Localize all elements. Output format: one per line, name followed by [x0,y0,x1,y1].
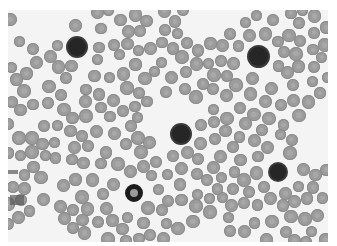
red-blood-cell [252,151,263,162]
red-blood-cell [140,15,153,28]
red-blood-cell [278,119,289,130]
debris [8,170,18,174]
red-blood-cell [293,181,305,193]
red-blood-cell [240,17,251,28]
red-blood-cell [201,174,213,186]
red-blood-cell [308,27,320,39]
red-blood-cell [17,84,31,98]
red-blood-cell [76,130,88,142]
red-blood-cell [52,120,64,132]
red-blood-cell [311,209,324,222]
red-blood-cell [156,37,168,49]
red-blood-cell [8,147,14,159]
red-blood-cell [223,212,234,223]
red-blood-cell [114,14,127,27]
red-blood-cell [64,125,76,137]
red-blood-cell [216,39,229,52]
red-blood-cell [42,97,54,109]
red-blood-cell [224,28,236,40]
red-blood-cell [93,42,104,53]
red-blood-cell [203,205,217,219]
red-blood-cell [52,40,64,52]
red-blood-cell [179,83,191,95]
red-blood-cell [194,137,207,150]
red-blood-cell [220,89,233,102]
red-blood-cell [52,60,66,74]
red-blood-cell [252,199,263,210]
red-blood-cell [243,29,256,42]
red-blood-cell [117,67,131,81]
red-blood-cell [25,131,39,145]
red-blood-cell [256,124,268,136]
red-blood-cell [60,72,72,84]
red-blood-cell [14,104,27,117]
red-blood-cell [95,158,106,169]
red-blood-cell [224,225,236,237]
red-blood-cell [307,76,318,87]
red-blood-cell [14,36,25,47]
red-blood-cell [249,217,260,228]
red-blood-cell [289,47,303,61]
red-blood-cell [259,95,272,108]
red-blood-cell [260,233,273,242]
red-blood-cell [132,112,143,123]
red-blood-cell [219,125,231,137]
red-blood-cell [320,164,328,176]
red-blood-cell [267,14,279,26]
red-blood-cell [137,217,150,230]
red-blood-cell [95,23,107,35]
red-blood-cell [208,104,219,115]
red-blood-cell [319,233,328,242]
red-blood-cell [104,111,116,123]
red-blood-cell [121,38,134,51]
red-blood-cell [180,66,192,78]
red-blood-cell [12,131,26,145]
red-blood-cell [134,145,148,159]
red-blood-cell [93,88,105,100]
red-blood-cell [108,127,121,140]
red-blood-cell [162,169,173,180]
red-blood-cell [234,102,246,114]
red-blood-cell [247,108,261,122]
ring-nucleated-cell [125,184,143,202]
red-blood-cell [150,156,162,168]
red-blood-cell [92,216,104,228]
red-blood-cell [259,27,273,41]
red-blood-cell [171,222,185,236]
red-blood-cell [287,79,299,91]
red-blood-cell [237,173,251,187]
red-blood-cell [141,201,155,215]
red-blood-cell [322,72,328,83]
red-blood-cell [92,54,103,65]
red-blood-cell [90,125,104,139]
red-blood-cell [307,44,318,55]
red-blood-cell [207,83,219,95]
red-blood-cell [134,25,146,37]
red-blood-cell [80,84,91,95]
red-blood-cell [129,58,141,70]
red-blood-cell [120,138,133,151]
red-blood-cell [37,193,50,206]
red-blood-cell [294,35,306,47]
red-blood-cell [261,141,274,154]
red-blood-cell [258,181,270,193]
red-blood-cell [175,194,187,206]
red-blood-cell [251,10,262,21]
red-blood-cell [27,99,38,110]
red-blood-cell [227,141,239,153]
red-blood-cell [27,43,39,55]
red-blood-cell [169,15,181,27]
red-blood-cell [221,70,233,82]
red-blood-cell [49,137,60,148]
red-blood-cell [160,86,172,98]
red-blood-cell [133,45,144,56]
lymphocyte [270,164,286,180]
red-blood-cell [238,225,251,238]
red-blood-cell [66,154,77,165]
red-blood-cell [8,118,14,130]
red-blood-cell [82,140,94,152]
red-blood-cell [34,171,47,184]
red-blood-cell [262,112,275,125]
red-blood-cell [81,202,94,215]
red-blood-cell [66,112,79,125]
